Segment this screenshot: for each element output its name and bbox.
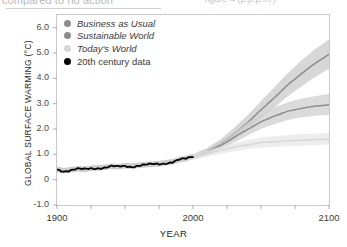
- legend-item[interactable]: Sustainable World: [64, 30, 155, 43]
- legend-item[interactable]: 20th century data: [64, 55, 155, 68]
- x-tick-label: 1900: [37, 212, 77, 223]
- x-axis-title: YEAR: [0, 228, 347, 239]
- legend-item-label: Business as Usual: [77, 18, 155, 29]
- y-tick-label: 6.0: [23, 22, 49, 32]
- legend-item[interactable]: Business as Usual: [64, 17, 155, 30]
- x-tick-label: 2000: [173, 212, 213, 223]
- legend-item-label: Sustainable World: [77, 30, 154, 41]
- y-tick-label: 0: [23, 174, 49, 184]
- legend-item-label: 20th century data: [77, 56, 150, 67]
- y-tick-label: 5.0: [23, 47, 49, 57]
- chart-legend: Business as UsualSustainable WorldToday'…: [64, 17, 155, 67]
- y-tick-label: 1.0: [23, 148, 49, 158]
- chart-screenshot: compared to no action figure 4 (p.p.p.m.…: [0, 0, 347, 247]
- legend-marker-icon: [64, 45, 71, 52]
- legend-marker-icon: [64, 20, 71, 27]
- y-tick-label: 4.0: [23, 72, 49, 82]
- uncertainty-band: [57, 154, 193, 174]
- y-tick-label: 2.0: [23, 123, 49, 133]
- legend-marker-icon: [64, 58, 71, 65]
- y-tick-label: -1.0: [23, 199, 49, 209]
- x-tick-label: 2100: [309, 212, 347, 223]
- chart-canvas: [0, 0, 347, 247]
- legend-marker-icon: [64, 32, 71, 39]
- legend-item[interactable]: Today's World: [64, 42, 155, 55]
- legend-item-label: Today's World: [77, 43, 137, 54]
- y-tick-label: 3.0: [23, 98, 49, 108]
